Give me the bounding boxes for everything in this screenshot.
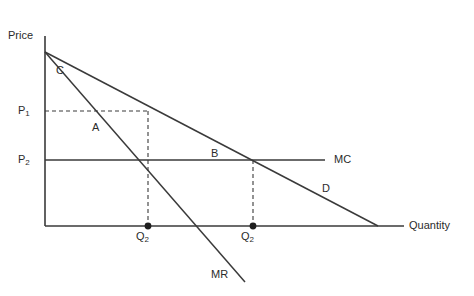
quantity-label-right-subscript: 2 [250,235,254,244]
quantity-label-right: Q2 [241,231,254,242]
diagram-canvas: Price Quantity P1 P2 Q2 Q2 D MR MC C A B [0,0,474,296]
y-axis-label: Price [8,30,33,41]
marginal-revenue-curve [45,52,245,282]
quantity-label-left-subscript: 2 [145,235,149,244]
region-label-a: A [92,122,99,133]
marginal-revenue-curve-label: MR [211,269,228,280]
x-axis-label: Quantity [409,220,450,231]
q-left-point [145,223,152,230]
quantity-label-left: Q2 [136,231,149,242]
quantity-label-left-text: Q [136,230,145,242]
quantity-label-right-text: Q [241,230,250,242]
price-label-p2: P2 [18,154,30,165]
region-label-c: C [56,65,64,76]
price-label-p1: P1 [18,105,30,116]
diagram-svg [0,0,474,296]
price-label-p2-subscript: 2 [25,158,29,167]
demand-curve-label: D [322,183,330,194]
region-label-b: B [211,148,218,159]
marginal-cost-curve-label: MC [334,154,351,165]
demand-curve [45,52,378,226]
q-right-point [250,223,257,230]
price-label-p1-subscript: 1 [25,109,29,118]
